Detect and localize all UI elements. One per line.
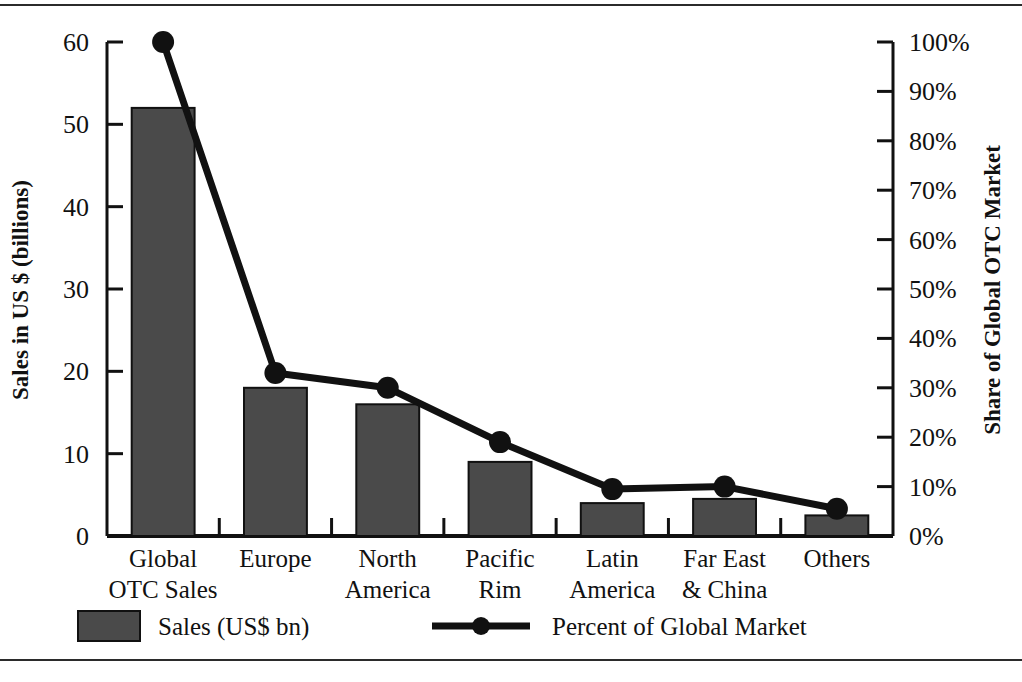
bar [693,499,756,536]
x-axis-label: Rim [478,576,522,603]
x-axis-label: Latin [586,545,639,572]
data-point [152,31,174,53]
bar [469,462,532,536]
legend-line-dot [472,617,490,635]
left-tick-label: 10 [63,440,89,469]
data-point [264,362,286,384]
right-tick-label: 40% [909,324,957,353]
right-tick-label: 30% [909,374,957,403]
data-point [601,478,623,500]
right-tick-label: 70% [909,176,957,205]
right-axis-title: Share of Global OTC Market [980,145,1005,435]
left-axis-ticks: 0102030405060 [63,28,123,551]
right-tick-label: 20% [909,423,957,452]
x-axis-label: Global [129,545,197,572]
left-tick-label: 60 [63,28,89,57]
legend-bar-swatch [78,611,140,641]
legend-bar-label: Sales (US$ bn) [158,613,309,641]
left-tick-label: 50 [63,110,89,139]
right-tick-label: 60% [909,226,957,255]
x-axis-label: Far East [683,545,766,572]
top-divider [0,4,1022,6]
bar [132,108,195,536]
x-axis-label: Pacific [465,545,534,572]
right-tick-label: 80% [909,127,957,156]
data-point [714,476,736,498]
data-point [377,377,399,399]
left-tick-label: 30 [63,275,89,304]
x-axis-label: Europe [239,545,311,572]
x-axis-label: OTC Sales [109,576,218,603]
chart-figure: 0102030405060 0%10%20%30%40%50%60%70%80%… [0,0,1022,682]
left-tick-label: 20 [63,357,89,386]
data-point [826,498,848,520]
bar [244,388,307,536]
x-axis-label: & China [682,576,767,603]
bar-series [132,108,869,536]
x-axis-label: America [345,576,431,603]
x-axis-label: North [359,545,418,572]
legend-line-label: Percent of Global Market [552,613,807,640]
bottom-divider [0,659,1022,661]
combo-chart: 0102030405060 0%10%20%30%40%50%60%70%80%… [0,0,1022,682]
x-axis-label: Others [804,545,871,572]
right-tick-label: 100% [909,28,970,57]
right-tick-label: 90% [909,77,957,106]
right-tick-label: 0% [909,522,944,551]
right-tick-label: 10% [909,473,957,502]
left-axis-title: Sales in US $ (billions) [8,180,33,400]
right-tick-label: 50% [909,275,957,304]
right-axis-ticks: 0%10%20%30%40%50%60%70%80%90%100% [877,28,970,551]
left-tick-label: 40 [63,193,89,222]
chart-legend: Sales (US$ bn) Percent of Global Market [78,611,807,641]
left-tick-label: 0 [76,522,89,551]
data-point [489,431,511,453]
x-axis-labels: GlobalOTC SalesEuropeNorthAmericaPacific… [109,545,871,603]
bar [581,503,644,536]
x-axis-label: America [569,576,655,603]
bar [356,404,419,536]
